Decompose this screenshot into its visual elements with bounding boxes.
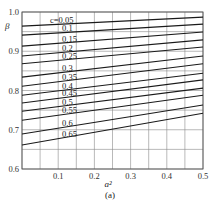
y-tick-label: 0.7 — [8, 125, 19, 135]
x-tick-label: 0.4 — [161, 171, 172, 181]
x-axis-ticks: 0.10.20.30.40.5 — [53, 171, 208, 181]
x-tick-label: 0.5 — [198, 171, 209, 181]
y-tick-label: 1.0 — [8, 7, 19, 17]
x-tick-label: 0.3 — [125, 171, 136, 181]
y-tick-label: 0.9 — [8, 46, 19, 56]
y-axis-ticks: 0.60.70.80.91.0 — [8, 7, 19, 174]
y-tick-label: 0.8 — [8, 86, 19, 96]
x-tick-label: 0.2 — [89, 171, 100, 181]
series-label: 0.6 — [62, 118, 73, 128]
series-label: 0.25 — [62, 51, 77, 61]
x-axis-title: a² — [104, 179, 112, 189]
series-label: 0.1 — [62, 23, 73, 33]
series-label: 0.65 — [62, 129, 77, 139]
x-tick-label: 0.1 — [53, 171, 64, 181]
grid — [22, 12, 203, 169]
y-axis-title: β — [4, 21, 10, 31]
y-tick-label: 0.6 — [8, 164, 19, 174]
beta-vs-a2-chart: c=0.050.10.150.20.250.30.350.40.450.50.5… — [0, 0, 211, 200]
chart-caption: (a) — [105, 190, 115, 200]
series-label: 0.55 — [62, 105, 77, 115]
